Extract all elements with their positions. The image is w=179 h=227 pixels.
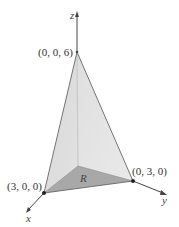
x-axis-label: x [25, 212, 31, 224]
vertex-label-z: (0, 0, 6) [38, 46, 73, 59]
vertex-dot-y [131, 179, 135, 183]
vertex-label-x: (3, 0, 0) [7, 180, 42, 193]
vertex-label-y: (0, 3, 0) [132, 165, 167, 178]
z-axis [75, 11, 79, 52]
y-axis [133, 181, 167, 195]
x-axis [26, 193, 44, 213]
region-label: R [79, 172, 87, 184]
z-axis-label: z [69, 9, 75, 21]
vertex-dot-z [76, 51, 79, 54]
y-axis-label: y [161, 194, 167, 206]
tetrahedron-diagram: z x y (0, 0, 6) (3, 0, 0) (0, 3, 0) R [0, 0, 179, 227]
vertex-dot-x [42, 191, 46, 195]
